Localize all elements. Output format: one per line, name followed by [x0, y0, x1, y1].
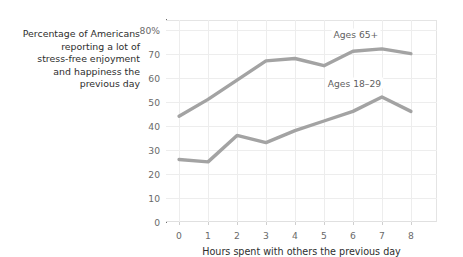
plot-area: 01020304050607080% 012345678 Ages 65+Age… — [166, 20, 437, 222]
x-tick-label: 5 — [321, 230, 327, 241]
y-tick-label: 30 — [148, 144, 160, 155]
x-tick-mark — [208, 222, 209, 225]
y-tick-label: 60 — [148, 72, 160, 83]
y-tick-label: 10 — [148, 192, 160, 203]
y-tick-label: 80% — [140, 24, 160, 35]
x-tick-label: 6 — [350, 230, 356, 241]
x-tick-label: 3 — [263, 230, 269, 241]
x-tick-mark — [179, 222, 180, 225]
x-tick-label: 1 — [205, 230, 211, 241]
x-tick-mark — [353, 222, 354, 225]
x-tick-label: 2 — [234, 230, 240, 241]
x-tick-mark — [411, 222, 412, 225]
x-tick-mark — [266, 222, 267, 225]
y-tick-label: 40 — [148, 120, 160, 131]
x-tick-label: 7 — [379, 230, 385, 241]
x-tick-label: 0 — [176, 230, 182, 241]
series-lines — [166, 20, 437, 222]
y-tick-label: 50 — [148, 96, 160, 107]
chart-caption: Percentage of Americans reporting a lot … — [8, 28, 140, 91]
y-tick-label: 0 — [154, 217, 160, 228]
x-tick-mark — [382, 222, 383, 225]
x-tick-label: 4 — [292, 230, 298, 241]
x-axis-label: Hours spent with others the previous day — [166, 246, 437, 257]
series-line-1 — [179, 97, 411, 162]
x-tick-mark — [295, 222, 296, 225]
series-label-0: Ages 65+ — [331, 29, 380, 40]
y-tick-label: 20 — [148, 168, 160, 179]
series-label-1: Ages 18–29 — [326, 77, 383, 88]
x-tick-label: 8 — [408, 230, 414, 241]
y-tick-label: 70 — [148, 48, 160, 59]
x-tick-mark — [324, 222, 325, 225]
x-tick-mark — [237, 222, 238, 225]
